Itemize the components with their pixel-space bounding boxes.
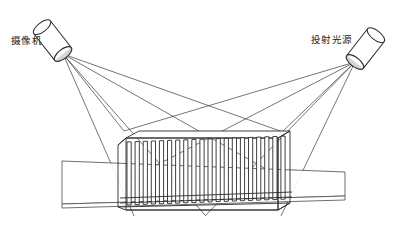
fin — [224, 138, 228, 201]
light-ray-5 — [283, 62, 355, 131]
fin — [151, 141, 155, 204]
fin — [127, 142, 131, 205]
fin — [273, 136, 277, 199]
light-ray-1 — [124, 62, 355, 131]
fin — [192, 139, 196, 202]
fin — [216, 139, 220, 202]
fin — [159, 141, 163, 204]
camera-label: 摄像机 — [11, 33, 42, 47]
diagram-canvas: 摄像机 投射光源 — [0, 0, 394, 243]
light-source-label: 投射光源 — [311, 32, 353, 46]
fin — [265, 137, 269, 200]
fin — [232, 138, 236, 201]
fin — [168, 140, 172, 203]
camera-ray-5 — [63, 54, 124, 131]
fin — [281, 136, 285, 199]
fin — [200, 139, 204, 202]
fin — [208, 139, 212, 202]
fin — [257, 137, 261, 200]
fin — [184, 140, 188, 203]
fin — [240, 138, 244, 201]
fin — [135, 142, 139, 205]
fin — [176, 140, 180, 203]
fin — [249, 137, 253, 200]
fin — [143, 141, 147, 204]
